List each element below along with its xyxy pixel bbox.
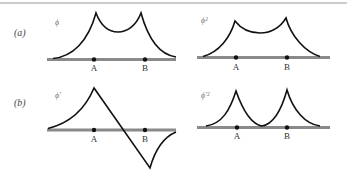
- panel-phi-prime: ϕ′ A B: [47, 88, 176, 168]
- row-label-a: (a): [14, 27, 26, 39]
- point-a-dot: [92, 57, 96, 61]
- point-a-dot: [234, 55, 238, 59]
- function-label-phi: ϕ: [55, 18, 59, 27]
- panel-phi-prime-squared: ϕ′² A B: [197, 90, 330, 141]
- point-b-dot: [143, 128, 147, 132]
- phi-prime-curve: [48, 88, 176, 168]
- row-label-b: (b): [14, 97, 26, 109]
- point-b-label: B: [284, 131, 290, 141]
- function-label-phi-squared: ϕ²: [201, 16, 208, 25]
- point-a-label: A: [233, 62, 240, 72]
- point-a-label: A: [234, 131, 241, 141]
- function-label-phi-prime-squared: ϕ′²: [201, 91, 210, 100]
- phi-squared-curve: [203, 18, 320, 57]
- point-a-dot: [235, 125, 239, 129]
- function-label-phi-prime: ϕ′: [55, 91, 61, 100]
- point-b-label: B: [142, 63, 148, 73]
- phi-prime-squared-curve: [206, 90, 320, 126]
- point-b-label: B: [142, 134, 148, 144]
- panel-phi-squared: ϕ² A B: [197, 16, 330, 72]
- point-a-dot: [92, 128, 96, 132]
- point-a-label: A: [91, 63, 98, 73]
- point-b-dot: [285, 125, 289, 129]
- diagram-figure: (a) (b) ϕ A B ϕ² A B ϕ′ A B ϕ′² A: [0, 0, 347, 176]
- point-b-dot: [143, 57, 147, 61]
- point-b-label: B: [284, 62, 290, 72]
- panel-phi: ϕ A B: [47, 13, 176, 73]
- point-b-dot: [285, 55, 289, 59]
- point-a-label: A: [91, 134, 98, 144]
- phi-curve: [53, 13, 176, 59]
